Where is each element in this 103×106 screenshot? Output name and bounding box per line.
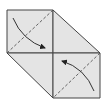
top-right-flap bbox=[53, 10, 100, 53]
bottom-left-flap bbox=[7, 53, 53, 98]
origami-diagram bbox=[0, 0, 103, 106]
